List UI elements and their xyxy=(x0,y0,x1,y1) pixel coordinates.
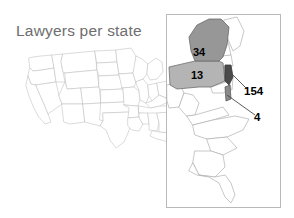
leader-line-4 xyxy=(227,95,255,115)
northeast-inset-box xyxy=(166,14,281,208)
label-callout-4: 4 xyxy=(254,111,260,123)
label-new-york-value: 34 xyxy=(193,46,205,58)
northeast-inset-map xyxy=(167,15,280,207)
region-delaware-maryland xyxy=(225,85,231,101)
label-callout-154: 154 xyxy=(244,85,263,97)
label-pennsylvania-value: 13 xyxy=(191,69,203,81)
figure-canvas: Lawyers per state xyxy=(0,0,294,218)
chart-title: Lawyers per state xyxy=(16,22,142,40)
